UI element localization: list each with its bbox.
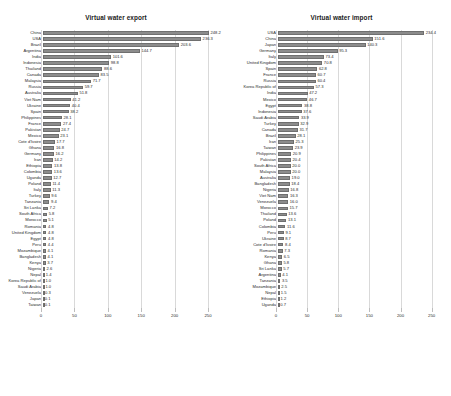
axis-tick [369,308,370,312]
bar [278,61,322,65]
axis-tick [276,308,277,312]
axis-tick [432,308,433,312]
axis-tick-label: 200 [171,313,178,318]
bar [278,67,317,71]
bar [278,55,324,59]
bar [43,104,70,108]
axis-tick [208,308,209,312]
bar [278,249,283,253]
bar [43,249,46,253]
bar [278,200,288,204]
bar [43,73,99,77]
bar [43,43,179,47]
bar-rows-import: USA234.4China151.6Japan140.3Germany95.3I… [232,30,451,308]
bar [43,231,46,235]
axis-tick [401,308,402,312]
axis-tick [108,308,109,312]
bar [278,140,294,144]
bar [43,67,102,71]
bar-rows-export: China248.2USA236.3Brazil203.6Argentina14… [0,30,232,308]
bar [278,243,283,247]
bar [278,207,288,211]
bar [43,158,52,162]
bar [278,279,280,283]
axis-tick [74,308,75,312]
plot-area-import: USA234.4China151.6Japan140.3Germany95.3I… [232,30,451,322]
bar [278,158,291,162]
bar [278,98,307,102]
axis-tick [175,308,176,312]
bar [278,219,286,223]
bar [43,37,201,41]
bar [278,237,283,241]
bar [278,146,293,150]
bar [278,43,365,47]
axis-tick-label: 200 [397,313,404,318]
x-axis-export: 050100150200250 [0,308,232,322]
bar [278,261,282,265]
bar [278,225,285,229]
axis-tick [307,308,308,312]
bar [278,188,288,192]
bar [43,80,91,84]
bar [43,61,109,65]
bar [278,170,290,174]
bar [43,219,46,223]
bar [278,182,289,186]
bar [43,116,62,120]
axis-tick-label: 150 [138,313,145,318]
bar [278,128,298,132]
bar [278,92,307,96]
bar [278,80,316,84]
bar [43,225,46,229]
axis-tick-label: 50 [305,313,310,318]
axis-tick-label: 50 [72,313,77,318]
bar [278,255,282,259]
bar [278,152,291,156]
bar [43,261,45,265]
bar [278,134,295,138]
bar [43,237,46,241]
axis-tick-label: 250 [428,313,435,318]
bar [278,273,281,277]
bar [43,134,58,138]
bar [278,122,298,126]
bar [278,194,288,198]
axis-tick-label: 150 [366,313,373,318]
bar [43,31,209,35]
bar [43,49,140,53]
bar [43,207,48,211]
gridline [276,30,277,308]
x-axis-import: 050100150200250 [232,308,451,322]
axis-tick-label: 0 [275,313,277,318]
bar [43,128,59,132]
bar [278,267,282,271]
bar [43,170,52,174]
bar [43,200,49,204]
axis-tick [141,308,142,312]
axis-tick-label: 100 [335,313,342,318]
bar [278,104,302,108]
bar [278,37,372,41]
bar [278,231,284,235]
bar [43,182,51,186]
axis-tick [338,308,339,312]
axis-tick-label: 100 [104,313,111,318]
bar [43,176,51,180]
bar [278,285,280,289]
bar [43,122,61,126]
bar [278,110,301,114]
bar [278,73,316,77]
bar [43,194,49,198]
bar [278,164,290,168]
axis-tick-label: 0 [40,313,42,318]
axis-tick [41,308,42,312]
chart-panel-export: Virtual water export China248.2USA236.3B… [0,0,232,396]
bar [43,98,71,102]
bar [43,164,52,168]
bar [278,213,286,217]
bar [43,140,55,144]
bar [43,55,111,59]
bar [278,86,314,90]
bar [278,49,337,53]
